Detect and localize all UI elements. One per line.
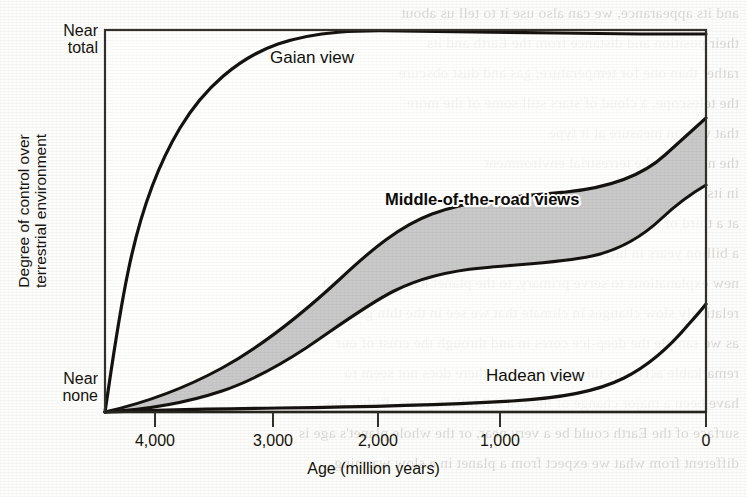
x-tick-label-1000: 1,000 — [460, 432, 540, 450]
y-axis-title-line2: terrestrial environment — [33, 95, 50, 327]
y-bottom-label: Near none — [22, 370, 98, 405]
y-top-label-line2: total — [22, 39, 98, 56]
figure-page: and its appearance, we can also use it t… — [0, 0, 747, 497]
x-tick-label-4000: 4,000 — [115, 432, 195, 450]
hadean-view-label: Hadean view — [486, 366, 584, 386]
chart-figure: Degree of control over terrestrial envir… — [0, 0, 747, 497]
y-top-label: Near total — [22, 22, 98, 57]
x-axis-title: Age (million years) — [0, 460, 747, 478]
y-axis-title-line1: Degree of control over — [16, 95, 33, 327]
chart-svg — [0, 0, 747, 497]
x-axis-ticks — [155, 412, 706, 427]
x-tick-label-0: 0 — [686, 432, 726, 450]
x-tick-label-3000: 3,000 — [233, 432, 313, 450]
y-bottom-label-line2: none — [22, 387, 98, 404]
x-tick-label-2000: 2,000 — [338, 432, 418, 450]
y-bottom-label-line1: Near — [22, 370, 98, 387]
y-top-label-line1: Near — [22, 22, 98, 39]
gaian-view-label: Gaian view — [270, 48, 354, 68]
middle-of-the-road-label: Middle-of-the-road views — [385, 190, 579, 209]
